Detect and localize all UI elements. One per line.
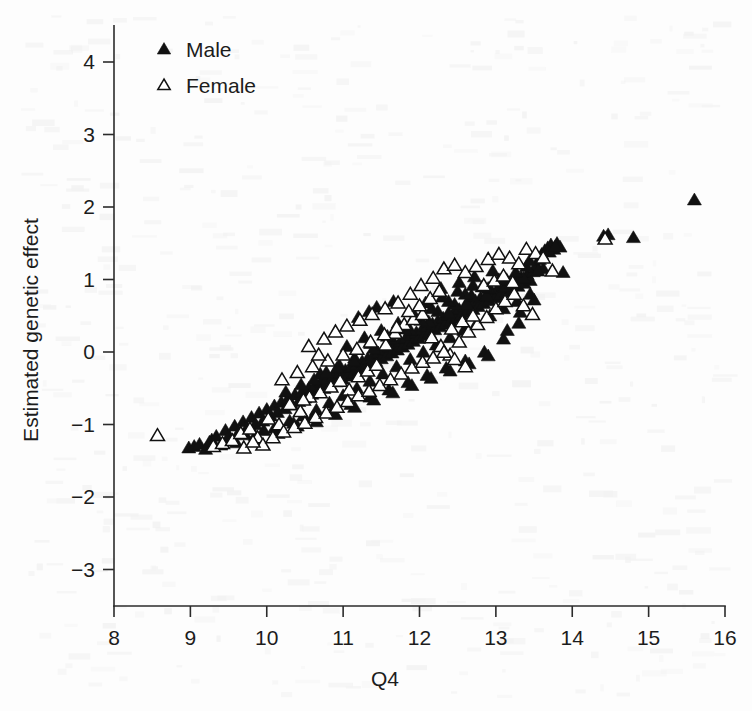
x-tick-label: 8 [108, 626, 120, 649]
marker-female [151, 429, 165, 441]
marker-female [340, 319, 354, 331]
y-tick-label: −3 [71, 558, 95, 581]
y-tick-label: 1 [83, 268, 95, 291]
x-tick-label: 13 [484, 626, 507, 649]
x-tick-label: 12 [408, 626, 431, 649]
legend-marker-female [158, 79, 170, 90]
x-tick-label: 10 [255, 626, 278, 649]
y-tick-label: −1 [71, 413, 95, 436]
marker-female [306, 360, 320, 372]
marker-female [448, 258, 462, 270]
y-tick-label: 3 [83, 123, 95, 146]
marker-male [279, 385, 293, 397]
marker-male [512, 316, 526, 328]
x-tick-label: 16 [713, 626, 736, 649]
y-tick-label: −2 [71, 485, 95, 508]
marker-female [275, 373, 289, 385]
marker-female [290, 366, 304, 378]
marker-female [302, 340, 316, 352]
marker-female [492, 248, 506, 260]
y-tick-label: 4 [83, 50, 95, 73]
x-tick-label: 11 [332, 626, 354, 649]
y-tick-label: 2 [83, 195, 95, 218]
marker-female [519, 242, 533, 254]
scatter-plot-figure: −3−2−1012348910111213141516 MaleFemale Q… [0, 0, 752, 711]
marker-male [687, 193, 701, 205]
marker-male [486, 264, 500, 276]
legend-label-female: Female [186, 74, 256, 97]
plot-canvas: −3−2−1012348910111213141516 MaleFemale Q… [0, 0, 752, 711]
x-tick-label: 14 [561, 626, 585, 649]
x-axis-title: Q4 [371, 667, 399, 690]
x-tick-label: 15 [637, 626, 660, 649]
marker-female [469, 260, 483, 272]
y-tick-label: 0 [83, 340, 95, 363]
marker-male [500, 324, 514, 336]
marker-male [294, 378, 308, 390]
legend-label-male: Male [186, 38, 232, 61]
legend: MaleFemale [157, 38, 256, 97]
x-tick-label: 9 [185, 626, 197, 649]
y-axis-title: Estimated genetic effect [19, 218, 42, 442]
legend-marker-male [157, 43, 170, 54]
marker-female [317, 332, 331, 344]
marker-female [414, 279, 428, 291]
